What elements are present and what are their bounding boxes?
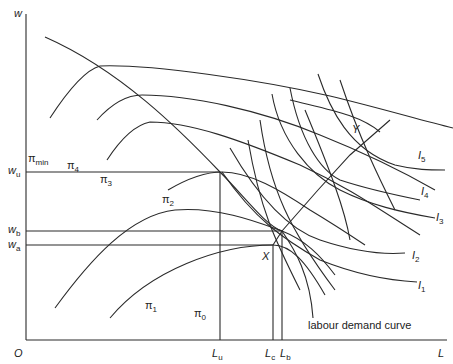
i5-label: I5 <box>418 150 426 164</box>
i2-label: I2 <box>412 250 420 264</box>
wb-label: wb <box>8 224 20 238</box>
i4-label: I4 <box>421 186 429 200</box>
y-axis-label: w <box>14 8 22 19</box>
indifference-strand-c <box>260 120 335 290</box>
wa-label: wa <box>8 239 20 253</box>
lu-label: Lu <box>212 348 223 362</box>
point-y-label: Y <box>352 124 359 135</box>
indifference-strand-d <box>248 140 300 290</box>
i1-label: I1 <box>418 280 426 294</box>
pi4-label: π4 <box>67 160 79 174</box>
origin-label: O <box>14 348 23 359</box>
point-x-label: X <box>262 251 269 262</box>
pi-min-label: πmin <box>28 153 48 167</box>
x-axis-label: L <box>438 348 444 359</box>
wu-label: wu <box>8 165 20 179</box>
diagram-canvas: w L O wu wb wa Lu Lc Lb πmin π4 π3 π2 π1… <box>0 0 453 364</box>
isoprofit-pi0 <box>110 245 325 318</box>
pi3-label: π3 <box>100 174 112 188</box>
lc-label: Lc <box>265 348 275 362</box>
isoprofit-pi1 <box>55 209 335 308</box>
lb-label: Lb <box>280 348 291 362</box>
isoprofit-pi-min <box>50 66 453 128</box>
pi1-label: π1 <box>145 300 157 314</box>
diagram-svg <box>0 0 453 364</box>
isoprofit-pi4 <box>97 95 435 190</box>
i3-label: I3 <box>436 212 444 226</box>
pi0-label: π0 <box>194 308 206 322</box>
labour-demand-label: labour demand curve <box>308 320 411 331</box>
indifference-curve-i2 <box>230 148 405 253</box>
contract-curve <box>273 120 390 245</box>
pi2-label: π2 <box>162 194 174 208</box>
